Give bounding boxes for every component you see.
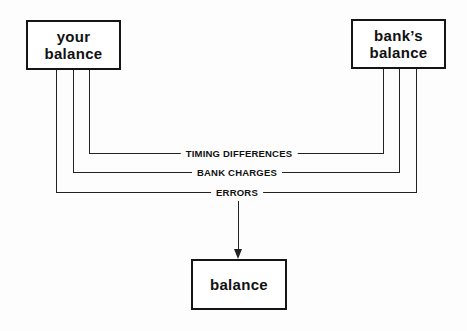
timing-left-line [89,70,90,153]
your-balance-line2: balance [45,45,103,62]
bank-charges-left-line [73,70,74,173]
bank-charges-right-line [399,69,400,173]
timing-right-line [383,69,384,153]
errors-label: ERRORS [211,187,263,198]
banks-balance-box: bank’s balance [351,19,446,69]
your-balance-line1: your [57,28,91,45]
result-arrow-line [238,201,239,251]
errors-left-line [56,70,57,192]
banks-balance-line2: balance [370,44,428,61]
bank-charges-label: BANK CHARGES [192,167,282,178]
timing-differences-label: TIMING DIFFERENCES [181,148,298,159]
banks-balance-line1: bank’s [374,27,423,44]
result-balance-box: balance [191,259,287,310]
arrow-down-icon [234,249,242,259]
your-balance-box: your balance [26,20,121,70]
errors-right-line [416,69,417,192]
result-balance-label: balance [210,276,268,293]
diagram-canvas: your balance bank’s balance TIMING DIFFE… [0,0,467,331]
